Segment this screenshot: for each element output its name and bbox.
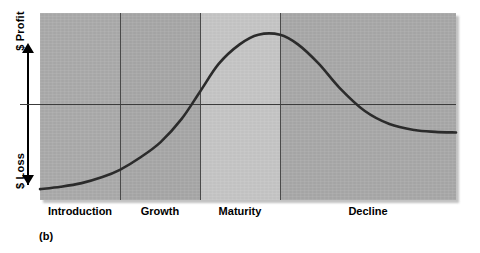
stage-label-maturity: Maturity <box>200 205 280 217</box>
figure-caption: (b) <box>39 230 53 242</box>
stage-label-growth: Growth <box>120 205 200 217</box>
y-axis-line <box>27 51 29 185</box>
y-axis-label-profit: $ Profit <box>14 1 26 61</box>
profit-curve-path <box>40 34 456 190</box>
profit-curve-svg <box>40 13 456 200</box>
stage-label-decline: Decline <box>280 205 456 217</box>
product-life-cycle-figure: $ Profit $ Loss Introduction Growth Matu… <box>0 0 480 253</box>
plot-area <box>40 13 456 200</box>
stage-label-introduction: Introduction <box>40 205 120 217</box>
y-axis-label-loss: $ Loss <box>14 141 26 201</box>
y-axis: $ Profit $ Loss <box>8 13 40 203</box>
